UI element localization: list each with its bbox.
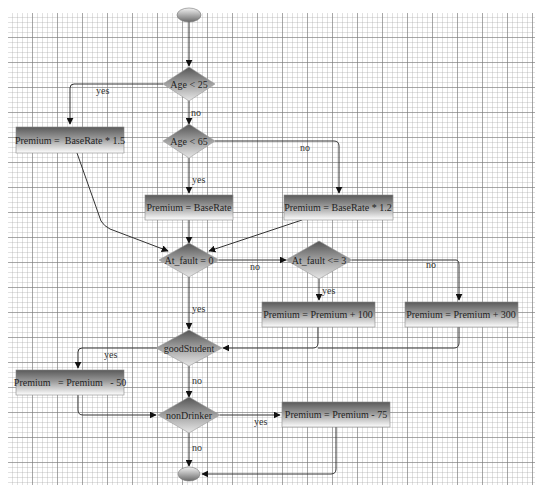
- edge-label-age65-yes: yes: [192, 174, 205, 185]
- edge-label-drinker-no: no: [192, 442, 202, 453]
- process-label: Premium = Premium + 300: [406, 309, 516, 320]
- edge-age65-p12: [215, 141, 339, 193]
- edge-label-fault0-yes: yes: [192, 303, 205, 314]
- edge-fault3-p300: [352, 260, 459, 300]
- process-label: Premium = Premium - 50: [14, 377, 126, 388]
- edge-label-age25-no: no: [191, 107, 201, 118]
- process-premium-plus-300[interactable]: Premium = Premium + 300: [405, 302, 518, 327]
- process-premium-minus-50[interactable]: Premium = Premium - 50: [14, 370, 126, 395]
- edge-label-fault0-no: no: [250, 261, 260, 272]
- edge-p100-student: [223, 327, 318, 348]
- process-premium-base[interactable]: Premium = BaseRate: [145, 195, 233, 220]
- edge-label-student-no: no: [192, 375, 202, 386]
- decision-at-fault-le-3[interactable]: At_fault <= 3: [286, 241, 352, 279]
- edge-label-fault3-yes: yes: [322, 285, 335, 296]
- start-terminal[interactable]: [177, 8, 201, 22]
- end-terminal[interactable]: [178, 467, 200, 481]
- process-label: Premium = BaseRate: [146, 202, 232, 213]
- decision-label: nonDrinker: [166, 410, 213, 421]
- edge-p75-end: [202, 426, 336, 474]
- decision-age-under-65[interactable]: Age < 65: [163, 124, 215, 158]
- edge-student-p50: [78, 348, 157, 368]
- decision-label: Age < 65: [170, 136, 207, 147]
- edge-label-drinker-yes: yes: [254, 416, 267, 427]
- process-label: Premium = BaseRate * 1.5: [15, 135, 125, 146]
- edge-p12-fault0: [209, 220, 302, 251]
- decision-label: Age < 25: [170, 79, 207, 90]
- decision-label: goodStudent: [164, 343, 215, 354]
- edge-p300-student: [318, 327, 459, 348]
- edge-label-fault3-no: no: [426, 259, 436, 270]
- decision-label: At_fault = 0: [165, 255, 214, 266]
- process-premium-minus-75[interactable]: Premium = Premium - 75: [282, 402, 390, 427]
- process-premium-base-1-5[interactable]: Premium = BaseRate * 1.5: [15, 127, 125, 153]
- process-premium-base-1-2[interactable]: Premium = BaseRate * 1.2: [284, 195, 393, 220]
- edge-label-age65-no: no: [300, 142, 310, 153]
- edge-p50-drinker: [78, 395, 156, 415]
- process-premium-plus-100[interactable]: Premium = Premium + 100: [262, 302, 375, 327]
- decision-at-fault-zero[interactable]: At_fault = 0: [159, 243, 219, 277]
- edge-age25-p15: [70, 84, 163, 124]
- process-label: Premium = Premium + 100: [263, 309, 373, 320]
- edge-label-age25-yes: yes: [96, 85, 109, 96]
- decision-good-student[interactable]: goodStudent: [156, 330, 222, 366]
- decision-non-drinker[interactable]: nonDrinker: [158, 397, 220, 433]
- decision-label: At_fault <= 3: [292, 255, 347, 266]
- edge-label-student-yes: yes: [104, 349, 117, 360]
- process-label: Premium = Premium - 75: [285, 409, 387, 420]
- decision-age-under-25[interactable]: Age < 25: [163, 67, 215, 101]
- process-label: Premium = BaseRate * 1.2: [284, 202, 392, 213]
- flowchart-canvas: yes no yes no no yes yes no yes no yes n…: [0, 0, 546, 498]
